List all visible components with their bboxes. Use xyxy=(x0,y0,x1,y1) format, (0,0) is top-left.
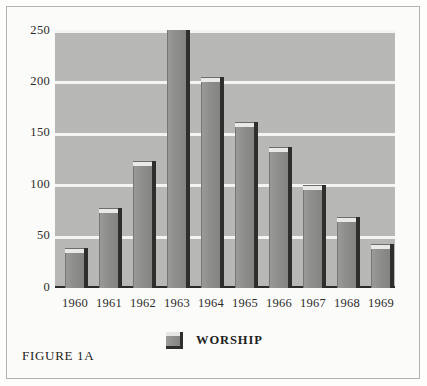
bar-side-shadow xyxy=(118,208,122,288)
bar-side-shadow xyxy=(220,77,224,288)
bar-top-cap xyxy=(133,161,152,166)
bar-top-cap xyxy=(65,248,84,253)
y-tick-label-200: 200 xyxy=(4,74,50,89)
gridline-150 xyxy=(55,133,395,136)
bar-side-shadow xyxy=(288,147,292,288)
y-tick-label-100: 100 xyxy=(4,177,50,192)
bar-1963 xyxy=(167,30,186,288)
bar-side-shadow xyxy=(356,217,360,288)
gridline-200 xyxy=(55,81,395,84)
bar-left-edge xyxy=(99,212,100,288)
bar-top-cap xyxy=(269,147,288,152)
y-tick-label-150: 150 xyxy=(4,125,50,140)
bar-1962 xyxy=(133,165,152,288)
y-tick-label-250: 250 xyxy=(4,23,50,38)
bar-left-edge xyxy=(65,252,66,288)
plot-area xyxy=(55,30,395,288)
bar-top-cap xyxy=(235,122,254,127)
y-tick-label-50: 50 xyxy=(4,228,50,243)
chart-legend: WORSHIP xyxy=(166,332,263,349)
bar-top-cap xyxy=(201,77,220,82)
gridline-100 xyxy=(55,184,395,187)
bar-side-shadow xyxy=(322,185,326,288)
bar-left-edge xyxy=(201,81,202,288)
bar-1961 xyxy=(99,212,118,288)
bar-left-edge xyxy=(167,30,168,288)
legend-label-worship: WORSHIP xyxy=(196,333,263,348)
bar-side-shadow xyxy=(390,244,394,288)
bar-1968 xyxy=(337,221,356,288)
gridline-250 xyxy=(55,30,395,33)
x-axis: 1960 1961 1962 1963 1964 1965 1966 1967 … xyxy=(55,296,395,316)
figure-root: 250 200 150 100 50 0 xyxy=(0,0,427,386)
bar-1964 xyxy=(201,81,220,288)
bar-side-shadow xyxy=(84,248,88,288)
bar-1967 xyxy=(303,189,322,288)
bar-top-cap xyxy=(99,208,118,213)
bar-left-edge xyxy=(269,151,270,288)
bar-left-edge xyxy=(303,189,304,288)
bar-left-edge xyxy=(133,165,134,288)
x-tick-label-1969: 1969 xyxy=(361,296,401,311)
bar-side-shadow xyxy=(254,122,258,288)
bar-left-edge xyxy=(337,221,338,288)
bar-side-shadow xyxy=(152,161,156,288)
figure-caption: FIGURE 1A xyxy=(22,348,94,364)
bar-side-shadow xyxy=(186,30,190,288)
bar-left-edge xyxy=(371,248,372,288)
bar-left-edge xyxy=(235,126,236,288)
bar-top-cap xyxy=(337,217,356,222)
bar-1960 xyxy=(65,252,84,288)
bar-1969 xyxy=(371,248,390,288)
bar-top-cap xyxy=(303,185,322,190)
y-axis: 250 200 150 100 50 0 xyxy=(0,30,50,288)
y-tick-label-0: 0 xyxy=(4,280,50,295)
bar-1966 xyxy=(269,151,288,288)
bar-top-cap xyxy=(371,244,390,249)
bar-1965 xyxy=(235,126,254,288)
legend-swatch-worship xyxy=(166,332,183,349)
